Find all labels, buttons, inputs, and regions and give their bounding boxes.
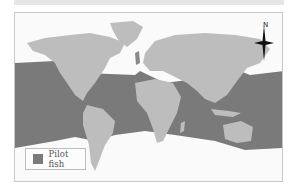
north-arrow-icon — [253, 23, 275, 63]
map-legend: Pilot fish — [25, 148, 86, 170]
legend-swatch — [33, 154, 43, 164]
legend-label: Pilot fish — [49, 149, 85, 169]
top-strip — [14, 0, 284, 5]
